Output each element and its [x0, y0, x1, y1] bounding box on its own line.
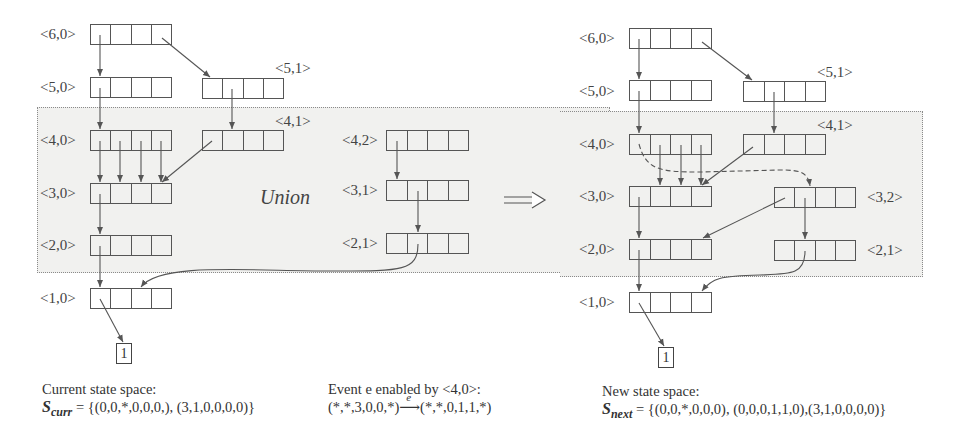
node-label: <5,0>: [579, 84, 615, 99]
node-4-0: [629, 134, 712, 155]
node-2-1: [774, 240, 856, 261]
new-state-set: Snext = {(0,0,*,0,0,0), (0,0,0,1,1,0),(3…: [602, 400, 886, 423]
node-label: <1,0>: [40, 291, 76, 306]
node-label: <3,0>: [579, 189, 615, 204]
node-label: <2,0>: [579, 242, 615, 257]
new-state-caption: New state space: Snext = {(0,0,*,0,0,0),…: [602, 382, 886, 423]
node-label: <5,0>: [40, 80, 76, 95]
node-label: <3,2>: [867, 190, 903, 205]
set-value: = {(0,0,*,0,0,0), (0,0,0,1,1,0),(3,1,0,0…: [632, 401, 886, 417]
node-label: <6,0>: [579, 31, 615, 46]
node-1-0: [629, 292, 712, 313]
current-state-caption: Current state space: Scurr = {(0,0,*,0,0…: [42, 380, 255, 421]
node-label: <5,1>: [817, 65, 853, 80]
set-symbol: S: [602, 400, 611, 417]
node-4-0: [90, 130, 172, 151]
set-subscript: next: [611, 407, 632, 421]
node-label: <4,2>: [342, 133, 378, 148]
node-2-1: [386, 233, 469, 254]
terminal-node-one: 1: [658, 347, 674, 368]
node-4-1: [202, 130, 284, 151]
node-5-1: [743, 81, 826, 102]
node-6-0: [90, 24, 172, 45]
node-3-1: [386, 180, 469, 201]
node-6-0: [629, 28, 712, 49]
node-5-0: [90, 77, 172, 98]
node-label: <4,1>: [275, 114, 311, 129]
event-to: (*,*,0,1,1,*): [420, 399, 491, 415]
set-symbol: S: [42, 398, 51, 415]
node-label: <4,0>: [40, 133, 76, 148]
node-4-1: [743, 134, 826, 155]
node-label: <6,0>: [40, 27, 76, 42]
event-caption: Event e enabled by <4,0>: (*,*,3,0,0,*)e…: [328, 380, 491, 416]
node-label: <4,0>: [579, 137, 615, 152]
current-state-set: Scurr = {(0,0,*,0,0,0,), (3,1,0,0,0,0)}: [42, 398, 255, 421]
current-state-title: Current state space:: [42, 380, 255, 398]
node-label: <3,1>: [342, 183, 378, 198]
union-label: Union: [260, 186, 310, 209]
node-2-0: [90, 235, 172, 256]
node-3-0: [629, 186, 712, 207]
node-label: <2,1>: [342, 236, 378, 251]
event-arrow-label: e: [406, 388, 411, 406]
node-5-1: [202, 78, 284, 99]
set-value: = {(0,0,*,0,0,0,), (3,1,0,0,0,0)}: [72, 399, 255, 415]
node-label: <5,1>: [275, 61, 311, 76]
event-from: (*,*,3,0,0,*): [328, 399, 399, 415]
node-3-2: [774, 187, 856, 208]
terminal-node-one: 1: [116, 343, 132, 364]
node-label: <2,1>: [867, 243, 903, 258]
node-5-0: [629, 80, 712, 101]
node-label: <3,0>: [40, 186, 76, 201]
set-subscript: curr: [51, 405, 72, 419]
node-3-0: [90, 183, 172, 204]
node-label: <4,1>: [817, 118, 853, 133]
mdd-union-diagram: <6,0> <5,0> <5,1> <4,0> <4,1> <4,2> <3,0…: [0, 0, 957, 446]
node-label: <2,0>: [40, 238, 76, 253]
node-2-0: [629, 239, 712, 260]
new-state-title: New state space:: [602, 382, 886, 400]
node-1-0: [90, 288, 172, 309]
event-transition: (*,*,3,0,0,*)e⟶(*,*,0,1,1,*): [328, 398, 491, 416]
node-4-2: [386, 130, 469, 151]
node-label: <1,0>: [579, 295, 615, 310]
